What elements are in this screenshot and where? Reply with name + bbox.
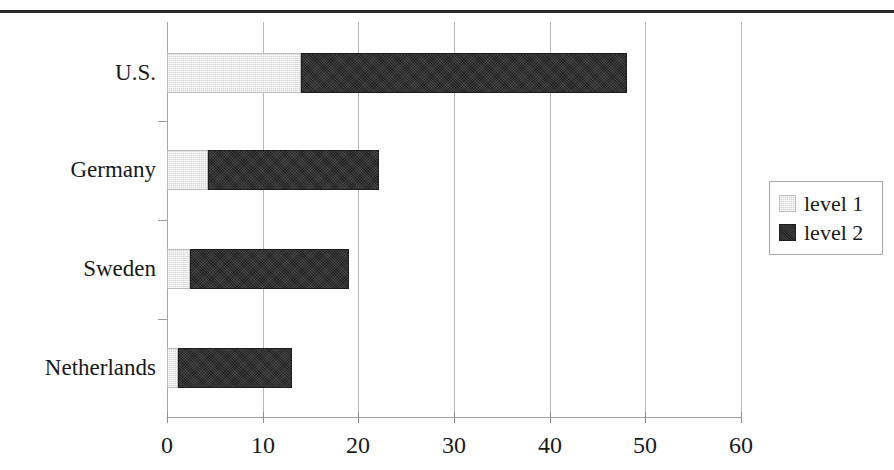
bar-segment-sweden-level1 [167,249,190,289]
bar-row-us [167,53,627,93]
gridline-50 [645,22,646,417]
legend-swatch-level2-icon [779,224,796,241]
bar-segment-sweden-level2 [190,249,349,289]
x-axis-tick-10 [263,412,264,423]
bar-segment-netherlands-level2 [178,348,292,388]
x-axis-tick-20 [358,412,359,423]
plot-area: U.S. Germany Sweden Netherlands 0 10 20 … [0,0,894,470]
y-category-tick-3 [158,319,168,320]
y-category-label-germany: Germany [0,156,156,184]
y-category-label-us: U.S. [0,59,156,87]
bar-row-sweden [167,249,349,289]
legend-label-level2: level 2 [804,221,863,245]
legend-item-level1: level 1 [779,189,882,218]
y-category-label-sweden: Sweden [0,255,156,283]
x-axis-label-10: 10 [233,430,293,460]
x-axis-tick-40 [550,412,551,423]
chart-page: U.S. Germany Sweden Netherlands 0 10 20 … [0,0,894,470]
x-axis-tick-50 [645,412,646,423]
bar-segment-us-level2 [301,53,627,93]
x-axis-tick-30 [454,412,455,423]
gridline-60 [741,22,742,417]
bar-segment-germany-level1 [167,150,208,190]
x-axis-label-50: 50 [615,430,675,460]
bar-row-netherlands [167,348,292,388]
x-axis-label-60: 60 [711,430,771,460]
x-axis-label-20: 20 [328,430,388,460]
bar-row-germany [167,150,379,190]
x-axis-tick-60 [741,412,742,423]
legend-swatch-level1-icon [779,195,796,212]
bar-segment-netherlands-level1 [167,348,178,388]
bar-segment-us-level1 [167,53,301,93]
chart-legend: level 1 level 2 [769,181,883,255]
x-axis-tick-0 [167,412,168,423]
legend-label-level1: level 1 [804,192,863,216]
x-axis-label-40: 40 [520,430,580,460]
y-category-tick-1 [158,121,168,122]
y-category-label-netherlands: Netherlands [0,354,156,382]
x-axis-label-0: 0 [137,430,197,460]
legend-item-level2: level 2 [779,218,882,247]
y-category-tick-2 [158,220,168,221]
bar-segment-germany-level2 [208,150,379,190]
x-axis-label-30: 30 [424,430,484,460]
